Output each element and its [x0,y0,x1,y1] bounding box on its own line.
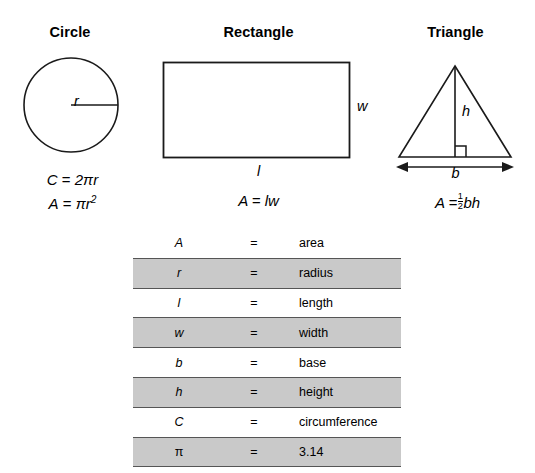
legend-symbol: r [133,258,225,288]
circumference-lhs: C [47,171,58,188]
legend-row: w=width [133,318,401,348]
legend-row: h=height [133,377,401,407]
legend-row: l=length [133,288,401,318]
legend-symbol: l [133,288,225,318]
symbol-legend-table: A=arear=radiusl=lengthw=widthb=baseh=hei… [133,229,401,467]
legend-description: length [283,288,401,318]
legend-description: height [283,377,401,407]
legend-description: base [283,348,401,378]
legend-equals: = [225,318,283,348]
rectangle-area-formula: A = lw [196,192,321,209]
triangle-height-label: h [462,103,470,119]
legend-description: 3.14 [283,437,401,467]
triangle-area-formula: A =12bh [395,192,520,212]
legend-description: width [283,318,401,348]
circumference-formula: C = 2πr [0,170,145,190]
legend-description: circumference [283,407,401,437]
legend-equals: = [225,258,283,288]
legend-description: radius [283,258,401,288]
legend-row: r=radius [133,258,401,288]
triangle-area-lhs: A = [435,194,457,211]
circle-radius-label: r [74,93,79,109]
legend-equals: = [225,348,283,378]
rectangle-width-label: w [357,98,367,114]
legend-row: π=3.14 [133,437,401,467]
circle-area-lhs: A [49,195,59,212]
rectangle-shape [164,63,350,158]
legend-symbol: C [133,407,225,437]
right-angle-marker [455,146,466,157]
equals-sign: = [59,195,76,212]
legend-table-body: A=arear=radiusl=lengthw=widthb=baseh=hei… [133,229,401,467]
legend-equals: = [225,229,283,258]
legend-equals: = [225,288,283,318]
legend-description: area [283,229,401,258]
legend-equals: = [225,407,283,437]
equals-sign: = [58,171,75,188]
circle-formulas: C = 2πr A = πr2 [0,170,145,214]
legend-row: A=area [133,229,401,258]
legend-symbol: π [133,437,225,467]
legend-row: C=circumference [133,407,401,437]
geometry-reference-sheet: Circle Rectangle Triangle r w l h b C = … [0,0,535,473]
circle-area-rhs: πr2 [76,195,97,212]
legend-symbol: w [133,318,225,348]
legend-equals: = [225,377,283,407]
exponent: 2 [91,194,97,205]
triangle-area-rhs: bh [463,194,480,211]
circumference-rhs: 2πr [75,171,98,188]
rectangle-length-label: l [196,163,321,179]
legend-row: b=base [133,348,401,378]
legend-symbol: h [133,377,225,407]
circle-area-formula: A = πr2 [0,190,145,214]
legend-equals: = [225,437,283,467]
legend-symbol: A [133,229,225,258]
legend-symbol: b [133,348,225,378]
triangle-base-label: b [398,165,513,181]
